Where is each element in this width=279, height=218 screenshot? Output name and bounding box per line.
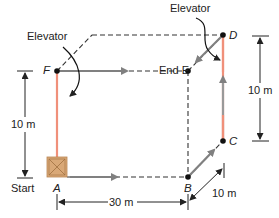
point-label-D: D xyxy=(229,30,237,42)
point-label-B: B xyxy=(184,183,192,195)
displacement-diagram: Elevator Elevator F End E D C B A Start … xyxy=(0,0,279,218)
movement-arrows xyxy=(60,35,223,177)
point-label-C: C xyxy=(229,136,237,148)
point-label-F: F xyxy=(43,65,50,77)
dimension-left-label: 10 m xyxy=(11,119,35,130)
point-label-E: End E xyxy=(159,65,189,76)
dimension-depth-label: 10 m xyxy=(212,188,236,199)
crate-icon xyxy=(47,157,67,177)
point-label-A: A xyxy=(53,183,61,195)
dimension-bottom-label: 30 m xyxy=(109,197,133,208)
start-label: Start xyxy=(11,183,34,194)
elevator-label-left: Elevator xyxy=(27,31,67,42)
point-label-E-text: End E xyxy=(159,64,189,76)
elevator-label-right: Elevator xyxy=(170,3,210,14)
path-points xyxy=(54,32,226,180)
dashed-box-edges xyxy=(57,35,223,177)
elevator-pointer-right xyxy=(196,18,220,60)
dimension-right-label: 10 m xyxy=(248,85,272,96)
